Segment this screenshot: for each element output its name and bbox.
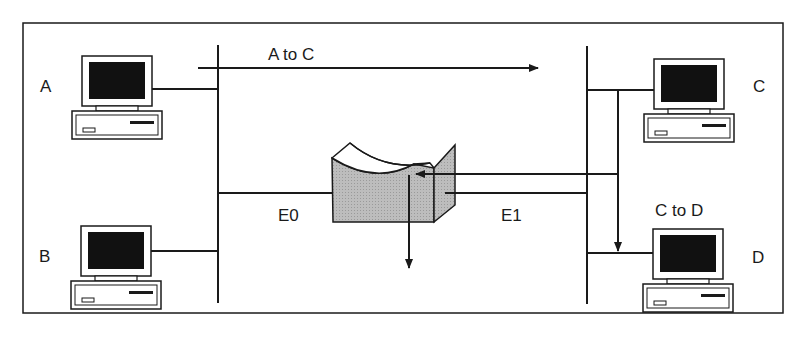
flow-a-to-c-label: A to C bbox=[268, 45, 314, 64]
host-a-label: A bbox=[40, 77, 52, 96]
interface-e0-label: E0 bbox=[278, 206, 299, 225]
flow-c-to-d-label: C to D bbox=[655, 201, 703, 220]
network-diagram: A B C D E0 E1 A to C bbox=[0, 0, 807, 344]
host-c-label: C bbox=[753, 77, 765, 96]
router-icon bbox=[332, 143, 455, 222]
host-b: B bbox=[39, 226, 218, 309]
host-c: C bbox=[587, 59, 765, 142]
host-a: A bbox=[40, 56, 218, 139]
interface-e1-label: E1 bbox=[501, 206, 522, 225]
host-b-label: B bbox=[39, 247, 50, 266]
host-d-label: D bbox=[752, 248, 764, 267]
host-d: D bbox=[587, 229, 764, 312]
flow-a-to-c: A to C bbox=[198, 45, 538, 68]
